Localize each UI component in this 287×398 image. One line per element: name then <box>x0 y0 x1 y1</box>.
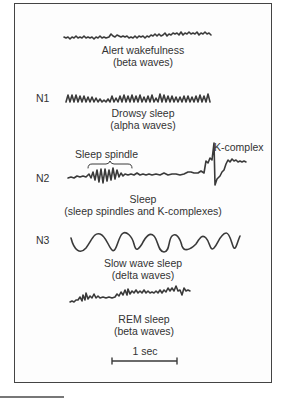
stage-label-n2: N2 <box>36 172 49 184</box>
stage-wake-title: Alert wakefulness <box>102 44 184 56</box>
scale-bar-label: 1 sec <box>132 345 157 357</box>
stage-label-n3: N3 <box>36 234 49 246</box>
stage-n3-title: Slow wave sleep <box>104 257 182 269</box>
stage-rem-subtitle: (beta waves) <box>114 325 174 337</box>
stage-n2-subtitle: (sleep spindles and K-complexes) <box>64 205 222 217</box>
delta-wave-trace-n3 <box>71 233 240 252</box>
beta-wave-trace-wake <box>64 32 211 39</box>
k-complex-label: K-complex <box>214 141 264 153</box>
beta-wave-trace-rem <box>70 286 190 302</box>
spindle-bracket <box>88 161 132 168</box>
stage-label-n1: N1 <box>36 92 49 104</box>
sleep-spindle-label: Sleep spindle <box>75 148 138 160</box>
stage-n1-title: Drowsy sleep <box>111 107 174 119</box>
stage-rem-title: REM sleep <box>118 313 169 325</box>
stage-n1-subtitle: (alpha waves) <box>110 119 175 131</box>
footer-rule <box>0 396 64 398</box>
stage-n2-title: Sleep <box>130 193 157 205</box>
stage-n3-subtitle: (delta waves) <box>112 269 174 281</box>
stage-wake-subtitle: (beta waves) <box>113 56 173 68</box>
alpha-wave-trace-n1 <box>66 94 210 102</box>
scale-bar <box>112 358 177 364</box>
